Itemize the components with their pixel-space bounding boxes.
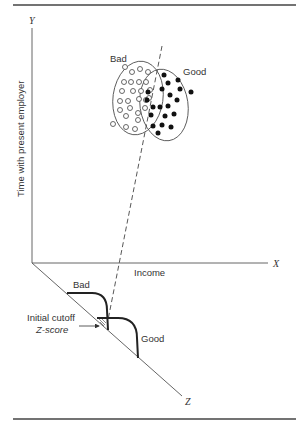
good-point (160, 123, 165, 128)
bad-point (118, 108, 123, 113)
z-axis-letter: Z (185, 396, 191, 407)
bad-point (124, 114, 129, 119)
good-point (151, 105, 156, 110)
bad-point (122, 80, 127, 85)
good-point (168, 93, 173, 98)
good-point (166, 104, 171, 109)
good-point (158, 105, 163, 110)
good-point (145, 98, 150, 103)
good-points (145, 73, 194, 136)
y-axis-letter: Y (29, 15, 36, 26)
bad-point (139, 89, 144, 94)
bad-point (111, 122, 116, 127)
good-point (162, 73, 167, 78)
good-point (169, 125, 174, 130)
good-point (178, 87, 183, 92)
discriminant-diagram: Y X Z Time with present employer Income … (0, 0, 296, 424)
y-axis-label: Time with present employer (15, 81, 26, 197)
bad-point (138, 67, 143, 72)
bad-distribution-label: Bad (73, 279, 90, 290)
bad-point (146, 70, 151, 75)
bad-point (136, 111, 141, 116)
bad-point (137, 80, 142, 85)
x-axis-label: Income (134, 267, 165, 278)
good-point (163, 114, 168, 119)
good-point (166, 81, 171, 86)
bad-point (131, 89, 136, 94)
bad-point (137, 97, 142, 102)
cutoff-label-line2: Z-score (35, 324, 68, 335)
good-point (189, 90, 194, 95)
bad-point (123, 65, 128, 70)
bad-point (128, 106, 133, 111)
good-cluster-label: Good (183, 66, 206, 77)
bad-point (124, 125, 129, 130)
good-point (176, 78, 181, 83)
bad-point (118, 99, 123, 104)
bad-point (120, 89, 125, 94)
bad-point (136, 118, 141, 123)
bad-point (143, 106, 148, 111)
bad-point (144, 80, 149, 85)
bad-point (130, 70, 135, 75)
good-distribution-label: Good (141, 333, 164, 344)
good-point (156, 131, 161, 136)
bad-point (129, 80, 134, 85)
good-point (160, 87, 165, 92)
x-axis-letter: X (272, 258, 280, 269)
bad-cluster-label: Bad (110, 53, 127, 64)
cutoff-label-line1: Initial cutoff (27, 312, 75, 323)
bad-point (133, 127, 138, 132)
good-point (172, 112, 177, 117)
good-point (175, 98, 180, 103)
good-point (151, 124, 156, 129)
bad-point (126, 99, 131, 104)
good-point (149, 113, 154, 118)
good-point (146, 90, 151, 95)
discriminant-line (108, 46, 162, 320)
